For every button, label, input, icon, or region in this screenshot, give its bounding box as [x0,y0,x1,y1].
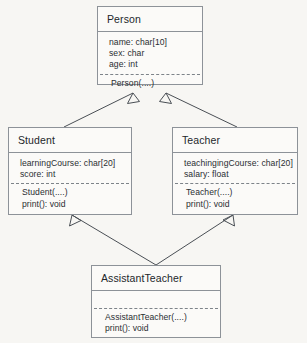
uml-class-teacher[interactable]: Teacher teachingingCourse: char[20] sala… [172,127,298,215]
class-name-student: Student [9,128,131,153]
operations-compartment-student: Student(....) print(): void [11,183,129,213]
uml-class-assistantteacher[interactable]: AssistantTeacher AssistantTeacher(....) … [91,265,221,338]
generalization-teacher-to-person [160,93,238,127]
attribute-item: teachingingCourse: char[20] [184,158,297,169]
operations-compartment-person: Person(....) [100,74,200,93]
attribute-item: name: char[10] [109,37,202,48]
class-body-student: learningCourse: char[20] score: int Stud… [9,153,131,214]
operation-item: Person(....) [111,78,200,89]
operation-item: Student(....) [22,187,129,198]
class-body-teacher: teachingingCourse: char[20] salary: floa… [173,153,297,214]
attribute-item: age: int [109,59,202,70]
generalization-assistantteacher-to-teacher [156,215,235,265]
class-name-person: Person [98,7,202,32]
operation-item: print(): void [186,199,295,210]
operation-item: print(): void [105,323,218,334]
uml-class-person[interactable]: Person name: char[10] sex: char age: int… [97,6,203,85]
attributes-compartment-assistantteacher [92,295,220,308]
operations-compartment-teacher: Teacher(....) print(): void [175,183,295,213]
class-body-assistantteacher: AssistantTeacher(....) print(): void [92,291,220,338]
class-body-person: name: char[10] sex: char age: int Person… [98,32,202,93]
attribute-item: learningCourse: char[20] [20,158,131,169]
attributes-compartment-student: learningCourse: char[20] score: int [9,157,131,183]
attribute-item: score: int [20,169,131,180]
class-name-assistantteacher: AssistantTeacher [92,266,220,291]
attributes-compartment-teacher: teachingingCourse: char[20] salary: floa… [173,157,297,183]
operation-item: Teacher(....) [186,187,295,198]
class-name-teacher: Teacher [173,128,297,153]
operation-item: print(): void [22,199,129,210]
uml-class-diagram: Person name: char[10] sex: char age: int… [0,0,307,343]
operations-compartment-assistantteacher: AssistantTeacher(....) print(): void [94,308,218,338]
attribute-item: sex: char [109,48,202,59]
operation-item: AssistantTeacher(....) [105,312,218,323]
attribute-item: salary: float [184,169,297,180]
generalization-student-to-person [64,93,140,127]
attributes-compartment-person: name: char[10] sex: char age: int [98,36,202,74]
generalization-assistantteacher-to-student [70,215,157,265]
uml-class-student[interactable]: Student learningCourse: char[20] score: … [8,127,132,215]
